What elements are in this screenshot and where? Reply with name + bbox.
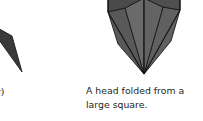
document-page-crop: r) A head folded from a large square. bbox=[0, 0, 203, 121]
caption-line-2: large square. bbox=[86, 98, 203, 112]
caption-line-1: A head folded from a bbox=[86, 84, 203, 98]
partial-triangle-figure bbox=[0, 26, 22, 72]
folded-head-figure bbox=[108, 0, 180, 74]
cropped-label-fragment: r) bbox=[0, 85, 4, 99]
figure-caption: A head folded from a large square. bbox=[86, 84, 203, 111]
partial-triangle-body bbox=[0, 26, 22, 72]
